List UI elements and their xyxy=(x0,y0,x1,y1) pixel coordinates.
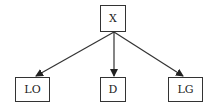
node-lo: LO xyxy=(15,77,50,102)
node-lo-label: LO xyxy=(24,83,40,96)
node-lg-label: LG xyxy=(177,83,193,96)
node-d: D xyxy=(100,77,126,102)
node-x: X xyxy=(100,5,126,32)
node-d-label: D xyxy=(109,83,118,96)
edge-x-to-lg xyxy=(114,32,183,76)
node-x-label: X xyxy=(109,12,117,25)
node-lg: LG xyxy=(168,77,203,102)
edge-x-to-lo xyxy=(36,32,114,76)
